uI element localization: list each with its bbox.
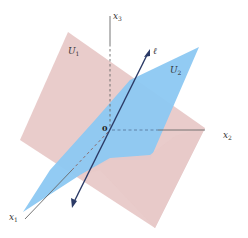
u1-label: U1 [68, 47, 79, 57]
x2-label: x2 [223, 131, 232, 141]
origin-label: 0 [102, 124, 108, 132]
line-l-label: ℓ [153, 47, 157, 56]
x1-label: x1 [9, 213, 18, 223]
arrowhead-down-icon [71, 198, 77, 208]
arrowhead-up-icon [144, 49, 150, 57]
x3-label: x3 [113, 12, 122, 22]
u2-label: U2 [170, 66, 181, 76]
subspaces-diagram: x3 x2 x1 0 U1 U2 ℓ [0, 0, 248, 238]
